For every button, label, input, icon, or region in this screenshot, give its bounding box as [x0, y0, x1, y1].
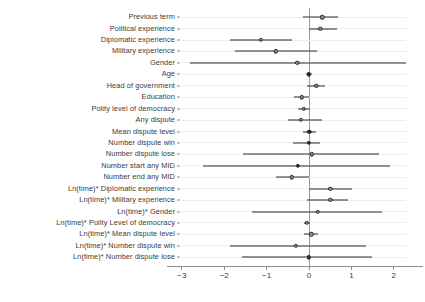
category-label: Previous term	[128, 13, 175, 21]
category-label: Any dispute	[136, 116, 175, 124]
category-label: Military experience	[112, 47, 175, 55]
category-label: Ln(time)* Mean dispute level	[79, 230, 175, 238]
x-axis-tick	[393, 267, 394, 270]
x-axis-tick-label: 0	[307, 271, 311, 280]
y-axis-tick	[177, 234, 180, 235]
point-estimate-marker	[302, 106, 306, 110]
point-estimate-marker	[320, 15, 324, 19]
point-estimate-marker	[295, 61, 299, 65]
y-axis-tick	[177, 257, 180, 258]
x-axis-tick	[351, 267, 352, 270]
point-estimate-marker	[290, 175, 294, 179]
gridline	[181, 234, 406, 235]
x-axis-tick-label: −2	[220, 271, 229, 280]
category-label: Ln(time)* Number dispute lose	[73, 253, 175, 261]
y-axis-tick	[177, 200, 180, 201]
coefficient-forest-plot: Previous termPolitical experienceDiploma…	[0, 0, 425, 302]
y-axis-tick	[177, 28, 180, 29]
x-axis-tick	[224, 267, 225, 270]
y-axis-tick	[177, 142, 180, 143]
y-axis-tick	[177, 188, 180, 189]
gridline	[181, 40, 406, 41]
point-estimate-marker	[294, 244, 298, 248]
y-axis-tick	[177, 97, 180, 98]
category-label: Mean dispute level	[112, 128, 175, 136]
category-label: Head of government	[107, 82, 175, 90]
x-axis-tick-label: −3	[177, 271, 186, 280]
category-label: Ln(time)* Number dispute win	[76, 242, 175, 250]
y-axis-tick	[177, 245, 180, 246]
gridline	[181, 222, 406, 223]
gridline	[181, 188, 406, 189]
y-axis-tick	[177, 51, 180, 52]
gridline	[181, 85, 406, 86]
point-estimate-marker	[307, 255, 311, 259]
y-axis-tick	[177, 154, 180, 155]
confidence-interval-bar	[288, 120, 322, 121]
point-estimate-marker	[318, 26, 322, 30]
category-label: Ln(time)* Gender	[117, 208, 175, 216]
point-estimate-marker	[316, 209, 320, 213]
category-label: Number start any MID	[101, 162, 175, 170]
y-axis-tick	[177, 165, 180, 166]
y-axis-tick	[177, 62, 180, 63]
y-axis-tick	[177, 40, 180, 41]
point-estimate-marker	[328, 198, 332, 202]
zero-reference-line	[309, 8, 310, 266]
category-label: Ln(time)* Polity Level of democracy	[56, 219, 175, 227]
category-label: Gender	[150, 59, 175, 67]
y-axis-tick	[177, 108, 180, 109]
point-estimate-marker	[300, 95, 304, 99]
y-axis-tick	[177, 222, 180, 223]
gridline	[181, 131, 406, 132]
x-axis-line	[167, 266, 424, 267]
gridline	[181, 17, 406, 18]
y-axis-tick	[177, 211, 180, 212]
plot-panel	[181, 0, 406, 302]
category-label-column: Previous termPolitical experienceDiploma…	[0, 0, 181, 302]
category-label: Number end any MID	[103, 173, 175, 181]
point-estimate-marker	[307, 129, 311, 133]
x-axis-tick-label: 1	[349, 271, 353, 280]
x-axis-tick-label: 2	[392, 271, 396, 280]
category-label: Ln(time)* Military experience	[79, 196, 175, 204]
category-label: Ln(time)* Diplomatic experience	[68, 185, 175, 193]
point-estimate-marker	[307, 72, 311, 76]
gridline	[181, 74, 406, 75]
point-estimate-marker	[307, 141, 311, 145]
point-estimate-marker	[328, 186, 332, 190]
category-label: Diplomatic experience	[101, 36, 175, 44]
y-axis-tick	[177, 131, 180, 132]
point-estimate-marker	[296, 164, 300, 168]
y-axis-tick	[177, 74, 180, 75]
category-label: Polity level of democracy	[91, 105, 175, 113]
gridline	[181, 28, 406, 29]
category-label: Education	[141, 93, 175, 101]
y-axis-tick	[177, 17, 180, 18]
point-estimate-marker	[310, 152, 314, 156]
point-estimate-marker	[259, 38, 263, 42]
x-axis-tick-label: −1	[262, 271, 271, 280]
point-estimate-marker	[274, 49, 278, 53]
point-estimate-marker	[299, 118, 303, 122]
confidence-interval-bar	[309, 28, 337, 29]
category-label: Political experience	[110, 25, 175, 33]
point-estimate-marker	[309, 232, 313, 236]
y-axis-tick	[177, 120, 180, 121]
category-label: Number dispute lose	[106, 150, 175, 158]
gridline	[181, 108, 406, 109]
y-axis-tick	[177, 85, 180, 86]
category-label: Number dispute win	[108, 139, 175, 147]
y-axis-tick	[177, 177, 180, 178]
point-estimate-marker	[314, 84, 318, 88]
category-label: Age	[162, 70, 175, 78]
x-axis-tick	[181, 267, 182, 270]
x-axis-tick	[309, 267, 310, 270]
confidence-interval-bar	[230, 245, 366, 246]
x-axis-tick	[266, 267, 267, 270]
gridline	[181, 200, 406, 201]
